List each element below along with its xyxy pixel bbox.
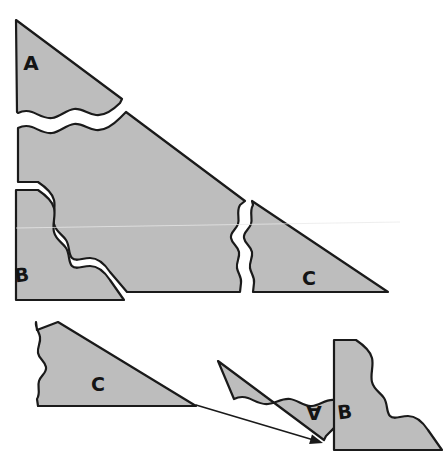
dissection-figure-root: A B C C A [0, 0, 448, 474]
bottom-piece-a-shape [218, 361, 342, 440]
top-piece-a-label: A [23, 51, 39, 75]
top-piece-b-label: B [13, 263, 30, 287]
bottom-figure-group: C A B [36, 322, 442, 450]
dissection-diagram: A B C C A [0, 0, 448, 474]
bottom-piece-c: C [36, 322, 196, 406]
bottom-piece-b-shape [334, 340, 442, 450]
bottom-piece-a-label: A [306, 401, 322, 425]
top-figure-group: A B C [13, 20, 400, 300]
bottom-piece-c-label: C [91, 373, 105, 395]
bottom-piece-b: B [334, 340, 442, 450]
top-piece-a: A [16, 20, 122, 118]
top-piece-c: C [244, 201, 388, 292]
bottom-piece-b-label: B [336, 400, 353, 424]
top-piece-c-label: C [302, 267, 316, 289]
bottom-piece-a: A [218, 361, 342, 440]
bottom-piece-c-shape [36, 322, 196, 406]
